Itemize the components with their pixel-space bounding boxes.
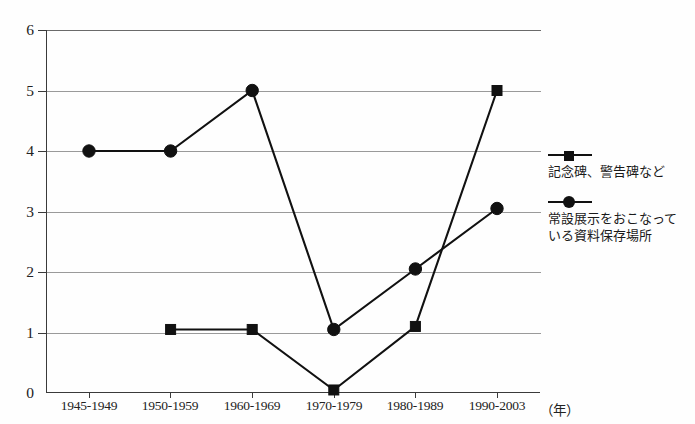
- legend-label-monuments: 記念碑、警告碑など: [548, 163, 693, 181]
- line-chart-figure: 6 5 4 3 2 1 0 1945-1949 1950-1959 1960-1…: [0, 0, 695, 424]
- x-axis-label-1990-2003: 1990-2003: [452, 399, 542, 414]
- y-tick-3: [38, 212, 46, 213]
- legend-entry-archives[interactable]: 常設展示をおこなって いる資料保存場所: [548, 195, 693, 245]
- y-tick-4: [38, 151, 46, 152]
- legend-swatch-circle: [548, 195, 592, 209]
- legend-swatch-square: [548, 148, 592, 162]
- x-axis-label-1970-1979: 1970-1979: [289, 399, 379, 414]
- plot-area: [46, 30, 540, 393]
- circle-marker-icon: [563, 196, 575, 208]
- y-tick-2: [38, 272, 46, 273]
- square-marker-icon: [564, 151, 574, 161]
- gridline-4: [47, 151, 541, 152]
- y-axis-label-0: 0: [8, 385, 34, 401]
- y-axis-label-5: 5: [8, 83, 34, 99]
- x-axis-label-1950-1959: 1950-1959: [125, 399, 215, 414]
- legend-entry-monuments[interactable]: 記念碑、警告碑など: [548, 148, 693, 181]
- y-axis-label-3: 3: [8, 204, 34, 220]
- gridline-2: [47, 272, 541, 273]
- legend-label-archives-line1: 常設展示をおこなって: [548, 210, 693, 228]
- x-axis-label-1960-1969: 1960-1969: [207, 399, 297, 414]
- y-axis-label-1: 1: [8, 325, 34, 341]
- gridline-6: [47, 30, 541, 31]
- gridline-5: [47, 91, 541, 92]
- gridline-1: [47, 333, 541, 334]
- y-axis-label-2: 2: [8, 264, 34, 280]
- x-axis-label-1980-1989: 1980-1989: [370, 399, 460, 414]
- legend-label-archives-line2: いる資料保存場所: [548, 227, 693, 245]
- chart-legend: 記念碑、警告碑など 常設展示をおこなって いる資料保存場所: [548, 148, 693, 259]
- y-tick-1: [38, 333, 46, 334]
- y-axis-label-6: 6: [8, 22, 34, 38]
- y-tick-6: [38, 30, 46, 31]
- y-tick-5: [38, 91, 46, 92]
- y-axis-label-4: 4: [8, 143, 34, 159]
- gridline-3: [47, 212, 541, 213]
- x-axis-unit-label: （年）: [540, 399, 579, 419]
- x-axis-label-1945-1949: 1945-1949: [44, 399, 134, 414]
